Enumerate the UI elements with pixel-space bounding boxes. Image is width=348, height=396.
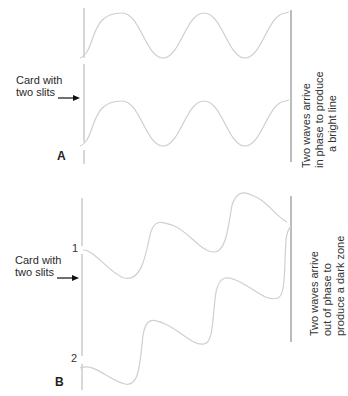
panel-a-arrow-icon [58, 95, 80, 101]
panel-b-slit-1-label: 1 [72, 242, 78, 254]
panel-b-wave-1 [83, 193, 287, 279]
panel-b-wave-2 [80, 226, 291, 384]
panel-a-wave-top [80, 12, 289, 58]
panel-b-letter: B [55, 375, 64, 389]
panel-a-result-line1: Two waves arrive [300, 83, 313, 168]
panel-a-result-line3: a bright line [326, 95, 339, 152]
panel-b-result-line3: produce a dark zone [334, 236, 347, 336]
panel-b-result-line2: out of phase to [321, 263, 334, 336]
panel-b-result-line1: Two waves arrive [308, 251, 321, 336]
panel-b-card-label-line2: two slits [15, 266, 54, 279]
panel-b-arrow-icon [57, 275, 79, 281]
panel-a-card-label-line2: two slits [16, 86, 55, 99]
panel-a-letter: A [57, 149, 66, 163]
panel-b-slit-2-label: 2 [71, 352, 77, 364]
panel-a-result-line2: in phase to produce [313, 71, 326, 168]
interference-diagram [0, 0, 348, 396]
panel-a-wave-bottom [80, 100, 289, 146]
